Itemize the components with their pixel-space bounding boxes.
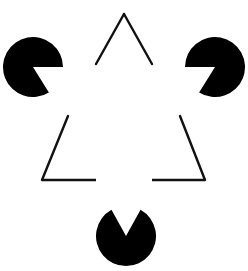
kanizsa-triangle-svg [0,0,248,271]
illusion-stage [0,0,248,271]
figure-root: contour illusion. [0,0,248,271]
